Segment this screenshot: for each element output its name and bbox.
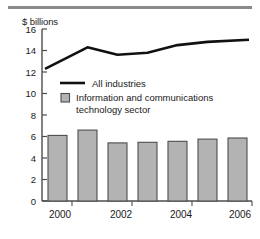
legend-square-marker [61, 94, 70, 103]
bar-2001 [78, 130, 97, 201]
x-tick-2000: 2000 [49, 209, 72, 220]
x-tick-2006: 2006 [229, 209, 252, 220]
x-axis-ticks [72, 201, 252, 206]
legend-label-all-industries: All industries [92, 78, 146, 89]
bar-2000 [48, 135, 67, 201]
bar-2003 [138, 142, 157, 201]
x-tick-2004: 2004 [170, 209, 193, 220]
bar-2004 [168, 141, 187, 201]
y-tick-14: 14 [25, 45, 36, 56]
y-tick-6: 6 [31, 131, 36, 142]
y-tick-0: 0 [31, 196, 36, 207]
y-tick-16: 16 [25, 24, 36, 35]
chart-figure: $ billions 16 14 12 10 8 6 4 2 [0, 0, 260, 239]
bar-2006 [228, 138, 247, 201]
bar-series-ict-sector [48, 130, 247, 201]
y-tick-4: 4 [31, 153, 36, 164]
y-tick-8: 8 [31, 110, 36, 121]
y-axis-tick-labels: 16 14 12 10 8 6 4 2 0 [25, 24, 36, 207]
x-tick-2002: 2002 [110, 209, 133, 220]
x-axis-tick-labels: 2000 2002 2004 2006 [49, 209, 252, 220]
legend-label-ict-line2: technology sector [76, 104, 150, 115]
y-axis-ticks [42, 29, 47, 201]
line-series-all-industries [45, 40, 249, 69]
y-tick-12: 12 [25, 67, 36, 78]
bar-2005 [198, 139, 217, 201]
y-tick-2: 2 [31, 174, 36, 185]
y-tick-10: 10 [25, 88, 36, 99]
chart-plot-area: 16 14 12 10 8 6 4 2 0 [0, 0, 260, 239]
chart-legend: All industries Information and communica… [60, 78, 214, 116]
bar-2002 [108, 143, 127, 201]
chart-source-footnote [8, 232, 256, 239]
legend-label-ict-line1: Information and communications [76, 92, 214, 103]
